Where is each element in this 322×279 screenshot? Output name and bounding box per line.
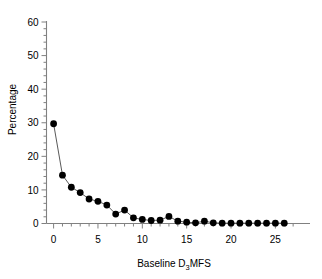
data-point-marker — [263, 220, 270, 227]
data-point-marker — [254, 220, 261, 227]
data-point-marker — [103, 202, 110, 209]
x-tick-label: 15 — [181, 234, 193, 245]
y-tick-label: 0 — [33, 218, 39, 229]
axis-tick-labels: 01020304050600510152025 — [27, 17, 281, 245]
y-tick-label: 10 — [27, 185, 39, 196]
data-point-marker — [228, 220, 235, 227]
data-point-marker — [50, 120, 57, 127]
data-point-marker — [95, 198, 102, 205]
x-axis-label-prefix: Baseline D — [137, 258, 185, 269]
data-point-marker — [157, 217, 164, 224]
data-point-marker — [245, 220, 252, 227]
axes — [47, 21, 311, 224]
y-tick-label: 30 — [27, 117, 39, 128]
data-point-marker — [130, 214, 137, 221]
data-point-marker — [272, 220, 279, 227]
data-point-marker — [237, 220, 244, 227]
x-axis-label: Baseline D3MFS — [46, 258, 302, 272]
data-point-marker — [201, 218, 208, 225]
axis-ticks — [42, 22, 294, 229]
x-tick-label: 20 — [225, 234, 237, 245]
data-point-marker — [77, 189, 84, 196]
data-point-marker — [121, 207, 128, 214]
x-tick-label: 25 — [270, 234, 282, 245]
data-point-marker — [148, 217, 155, 224]
data-point-marker — [139, 216, 146, 223]
line-chart-plot: 01020304050600510152025 — [0, 0, 322, 279]
y-tick-label: 20 — [27, 151, 39, 162]
x-tick-label: 10 — [137, 234, 149, 245]
data-point-marker — [59, 172, 66, 179]
x-axis-label-suffix: MFS — [190, 258, 211, 269]
data-point-marker — [86, 196, 93, 203]
data-point-marker — [112, 211, 119, 218]
data-point-marker — [219, 220, 226, 227]
data-point-marker — [68, 184, 75, 191]
data-point-marker — [166, 213, 173, 220]
data-point-marker — [183, 219, 190, 226]
series-line — [54, 124, 285, 223]
x-tick-label: 5 — [95, 234, 101, 245]
data-point-marker — [174, 218, 181, 225]
data-point-marker — [192, 219, 199, 226]
data-point-marker — [281, 220, 288, 227]
data-series — [50, 120, 287, 226]
y-tick-label: 40 — [27, 84, 39, 95]
y-tick-label: 50 — [27, 50, 39, 61]
x-tick-label: 0 — [51, 234, 57, 245]
y-axis-label: Percentage — [7, 70, 18, 150]
data-point-marker — [210, 219, 217, 226]
y-tick-label: 60 — [27, 17, 39, 28]
chart-figure: 01020304050600510152025 Percentage Basel… — [0, 0, 322, 279]
